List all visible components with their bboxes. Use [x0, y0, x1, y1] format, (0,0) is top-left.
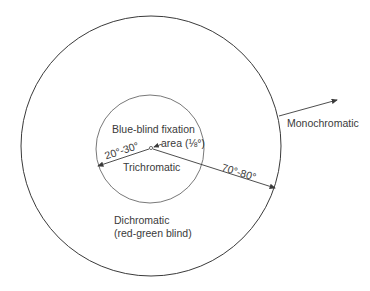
dichromatic-label-line2: (red-green blind): [114, 227, 192, 239]
fixation-label-line2: area (⅛°): [161, 137, 205, 149]
monochromatic-label: Monochromatic: [287, 117, 359, 129]
trichromatic-label: Trichromatic: [123, 161, 180, 173]
fixation-point: [149, 146, 152, 149]
color-vision-zones-diagram: Blue-blind fixation area (⅛°) 20°-30° Tr…: [0, 0, 370, 291]
fixation-label-line1: Blue-blind fixation: [112, 123, 195, 135]
monochromatic-arrow: [279, 100, 337, 116]
dichromatic-label-line1: Dichromatic: [114, 214, 169, 226]
